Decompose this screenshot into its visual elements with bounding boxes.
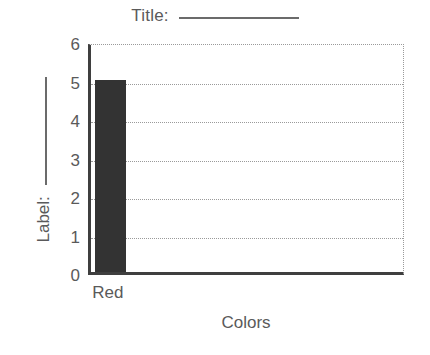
x-axis-title: Colors bbox=[88, 313, 404, 333]
y-tick-label: 6 bbox=[58, 36, 80, 53]
y-tick-label: 3 bbox=[58, 151, 80, 168]
y-axis-label: Label: bbox=[34, 50, 54, 270]
bar bbox=[95, 80, 126, 273]
y-axis-label-blank-line bbox=[45, 77, 47, 185]
title-blank-line bbox=[179, 17, 299, 19]
gridline bbox=[91, 199, 403, 200]
x-tick-label: Red bbox=[92, 283, 123, 303]
gridline bbox=[91, 238, 403, 239]
chart-title: Title: bbox=[0, 6, 430, 26]
plot-area bbox=[88, 44, 404, 275]
y-tick-label: 1 bbox=[58, 228, 80, 245]
y-tick-label: 0 bbox=[58, 267, 80, 284]
y-tick-label: 5 bbox=[58, 74, 80, 91]
gridline bbox=[91, 84, 403, 85]
gridline bbox=[91, 161, 403, 162]
chart-title-text: Title: bbox=[131, 6, 173, 25]
y-axis-label-text: Label: bbox=[34, 191, 53, 242]
y-tick-label: 4 bbox=[58, 113, 80, 130]
gridline bbox=[91, 122, 403, 123]
y-axis-tick-labels: 6543210 bbox=[56, 44, 80, 275]
y-tick-label: 2 bbox=[58, 190, 80, 207]
